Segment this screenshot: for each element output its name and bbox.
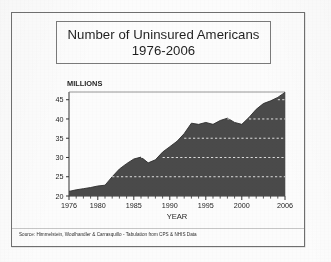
page-title-line-1: Number of Uninsured Americans (67, 27, 259, 42)
title-box: Number of Uninsured Americans 1976-2006 (56, 21, 271, 64)
page-title-line-2: 1976-2006 (132, 43, 196, 58)
footnote-divider (12, 228, 304, 229)
source-citation: Source: Himmelstein, Woolhandler & Carra… (19, 232, 295, 238)
slide-root: Number of Uninsured Americans 1976-2006 … (0, 0, 331, 262)
